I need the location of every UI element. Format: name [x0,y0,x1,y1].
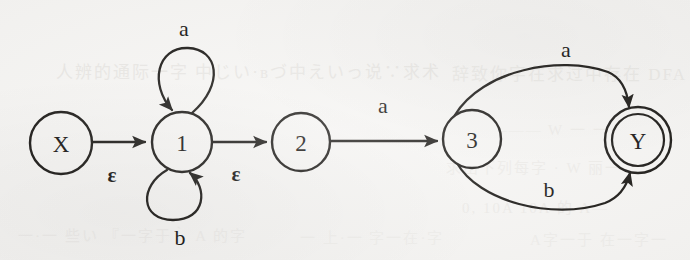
transition-label-1-to-1-b: b [175,225,186,250]
state-label: 2 [295,131,307,156]
state-2[interactable]: 2 [272,113,330,171]
transition-label-X-to-1: ε [108,163,117,187]
transition-1-to-1-a[interactable] [159,48,214,113]
state-X[interactable]: X [30,112,92,174]
state-label: 3 [466,128,478,153]
transition-label-1-to-2: ε [232,162,241,186]
transition-1-to-1-b[interactable] [147,170,201,220]
self-loop-arrow-bottom [147,170,201,220]
automaton-canvas: X 1 2 3 Y [0,0,690,260]
transition-label-3-to-Y-b: b [544,177,555,202]
transition-3-to-Y-a[interactable] [455,65,629,115]
self-loop-arrow-top [159,48,214,113]
state-label: 1 [176,131,188,156]
state-Y[interactable]: Y [605,107,671,173]
nfa-diagram: 人辨的通际一字 中じい·вづ中えいっ说∵求术 辞致你字在求过中存在 DFA W … [0,0,690,260]
transition-label-3-to-Y-a: a [561,37,571,62]
state-label: Y [630,129,647,154]
transition-label-1-to-1-a: a [179,16,189,41]
state-1[interactable]: 1 [152,112,212,172]
state-label: X [53,132,70,157]
state-3[interactable]: 3 [443,110,501,168]
transition-label-2-to-3: a [378,93,388,118]
transition-curve-upper [455,65,629,115]
